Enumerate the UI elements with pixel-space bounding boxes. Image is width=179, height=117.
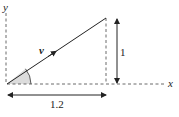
vector-v <box>7 18 106 84</box>
x-axis-label: x <box>167 77 173 89</box>
horizontal-dimension-label: 1.2 <box>50 98 64 110</box>
vertical-dimension-label: 1 <box>120 46 126 58</box>
y-axis-label: y <box>2 1 8 13</box>
vector-label: v <box>39 44 44 56</box>
vector-diagram: y x v 1 1.2 <box>0 0 179 117</box>
vector-arrowhead <box>48 51 56 56</box>
